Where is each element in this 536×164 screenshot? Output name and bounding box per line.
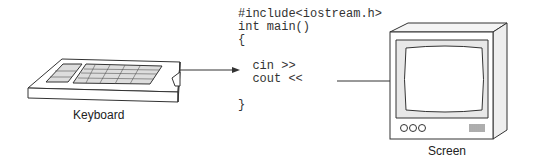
code-block: #include<iostream.h>int main(){ cin >> c… — [238, 8, 382, 112]
input-arrow — [180, 67, 240, 73]
code-line: { — [238, 34, 382, 47]
keyboard-label: Keyboard — [73, 108, 124, 122]
code-line: } — [238, 99, 382, 112]
io-diagram: #include<iostream.h>int main(){ cin >> c… — [0, 0, 536, 164]
screen-label: Screen — [428, 144, 466, 158]
code-line: cout << — [238, 73, 382, 86]
keyboard-icon — [28, 59, 180, 102]
monitor-icon — [390, 23, 507, 139]
code-line: int main() — [238, 21, 382, 34]
code-line — [238, 86, 382, 99]
